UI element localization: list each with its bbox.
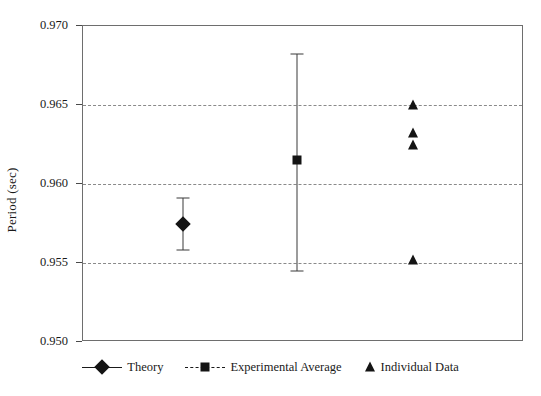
chart-legend: TheoryExperimental AverageIndividual Dat… bbox=[0, 361, 541, 374]
legend-key bbox=[82, 361, 122, 373]
period-comparison-chart: Period (sec) 0.9700.9650.9600.9550.950 T… bbox=[0, 0, 541, 396]
legend-label: Individual Data bbox=[381, 361, 459, 374]
diamond-icon bbox=[95, 359, 111, 375]
legend-key bbox=[185, 361, 225, 373]
gridline bbox=[83, 184, 522, 185]
y-tick-label: 0.970 bbox=[6, 18, 68, 33]
legend-entry[interactable]: Individual Data bbox=[364, 361, 459, 374]
y-axis-title: Period (sec) bbox=[4, 130, 20, 270]
y-tick-label: 0.950 bbox=[6, 334, 68, 349]
square-icon bbox=[201, 363, 210, 372]
legend-key bbox=[364, 361, 376, 373]
error-bar-line bbox=[296, 54, 297, 270]
gridline bbox=[83, 263, 522, 264]
plot-area bbox=[82, 25, 523, 341]
triangle-icon bbox=[365, 362, 375, 372]
triangle-data-point bbox=[408, 139, 418, 149]
legend-entry[interactable]: Theory bbox=[82, 361, 163, 374]
error-bar-cap bbox=[177, 250, 190, 251]
diamond-data-point bbox=[175, 216, 191, 232]
square-data-point bbox=[292, 156, 301, 165]
error-bar-cap bbox=[290, 54, 303, 55]
error-bar-line bbox=[183, 198, 184, 250]
y-tick-label: 0.955 bbox=[6, 255, 68, 270]
error-bar-cap bbox=[177, 198, 190, 199]
y-tick-mark bbox=[76, 341, 82, 342]
y-tick-label: 0.965 bbox=[6, 97, 68, 112]
series-layer bbox=[83, 26, 522, 340]
triangle-data-point bbox=[408, 128, 418, 138]
error-bar-cap bbox=[290, 270, 303, 271]
legend-label: Experimental Average bbox=[230, 361, 341, 374]
gridline bbox=[83, 105, 522, 106]
y-tick-label: 0.960 bbox=[6, 176, 68, 191]
legend-entry[interactable]: Experimental Average bbox=[185, 361, 341, 374]
legend-label: Theory bbox=[127, 361, 163, 374]
